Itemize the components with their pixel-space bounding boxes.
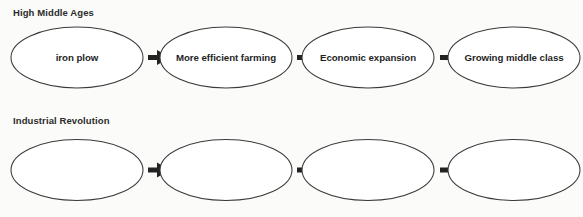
flow-node-label: iron plow <box>56 52 99 63</box>
flow-node-1-4[interactable]: Growing middle class <box>448 27 580 88</box>
flowchart-worksheet: High Middle Ages iron plow More efficien… <box>0 0 583 217</box>
section-heading-industrial-revolution: Industrial Revolution <box>13 115 110 126</box>
flow-node-1-2[interactable]: More efficient farming <box>160 27 292 88</box>
ellipse-shape[interactable] <box>160 140 292 201</box>
flow-node-label: Growing middle class <box>464 52 563 63</box>
section-high-middle-ages: High Middle Ages iron plow More efficien… <box>11 7 580 88</box>
section-heading-high-middle-ages: High Middle Ages <box>13 7 94 18</box>
flow-node-2-2[interactable] <box>160 140 292 201</box>
flow-node-1-1[interactable]: iron plow <box>11 27 143 88</box>
flow-node-2-1[interactable] <box>11 140 143 201</box>
flow-node-2-3[interactable] <box>302 140 434 201</box>
flow-node-label: More efficient farming <box>176 52 276 63</box>
ellipse-shape[interactable] <box>302 140 434 201</box>
flow-node-2-4[interactable] <box>448 140 580 201</box>
flow-node-label: Economic expansion <box>320 52 416 63</box>
ellipse-shape[interactable] <box>448 140 580 201</box>
flowchart-canvas: High Middle Ages iron plow More efficien… <box>0 0 583 217</box>
flow-node-1-3[interactable]: Economic expansion <box>302 27 434 88</box>
section-industrial-revolution: Industrial Revolution <box>11 115 580 201</box>
ellipse-shape[interactable] <box>11 140 143 201</box>
